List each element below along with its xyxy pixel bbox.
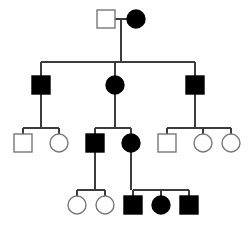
gen4-male-affected-a bbox=[124, 196, 142, 214]
gen3-female-unaffected-c bbox=[222, 134, 240, 152]
gen3-female-unaffected-b bbox=[194, 134, 212, 152]
gen3-male-affected bbox=[86, 134, 104, 152]
gen3-female-affected bbox=[122, 134, 140, 152]
gen2-female-affected-middle bbox=[106, 76, 124, 94]
gen4-female-unaffected-b bbox=[96, 196, 114, 214]
gen1-female-affected bbox=[127, 10, 145, 28]
gen2-male-affected-left bbox=[32, 76, 50, 94]
individual-symbols-layer bbox=[14, 10, 240, 214]
gen1-male-unaffected bbox=[97, 10, 115, 28]
gen3-male-unaffected-b bbox=[158, 134, 176, 152]
pedigree-canvas bbox=[0, 0, 248, 230]
gen4-male-affected-b bbox=[180, 196, 198, 214]
connector-lines-layer bbox=[23, 19, 231, 196]
gen4-female-unaffected-a bbox=[68, 196, 86, 214]
gen2-male-affected-right bbox=[186, 76, 204, 94]
gen4-female-affected bbox=[152, 196, 170, 214]
gen3-male-unaffected-a bbox=[14, 134, 32, 152]
gen3-female-unaffected-a bbox=[50, 134, 68, 152]
pedigree-chart bbox=[0, 0, 248, 230]
